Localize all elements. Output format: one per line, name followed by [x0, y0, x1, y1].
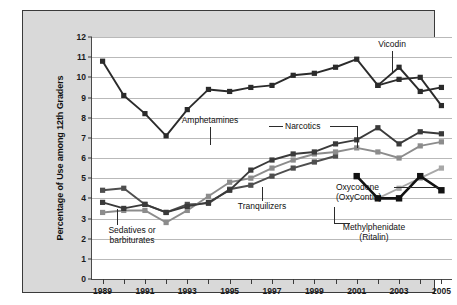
- x-tick-mark: [166, 279, 167, 284]
- data-point-marker: [121, 206, 126, 211]
- data-point-marker: [312, 149, 317, 154]
- leader-tranquilizers: [262, 187, 263, 201]
- annotation-narcotics: Narcotics: [285, 121, 320, 132]
- data-point-marker: [121, 93, 126, 98]
- data-point-marker: [439, 139, 444, 144]
- annotation-sedatives-line2: barbiturates: [110, 235, 155, 246]
- series-line: [103, 156, 336, 212]
- y-tick-label: 6: [81, 153, 86, 163]
- x-tick-mark: [208, 279, 209, 284]
- data-point-marker: [248, 85, 253, 90]
- y-tick-label: 9: [81, 93, 86, 103]
- y-tick-label: 7: [81, 133, 86, 143]
- x-tick-label: 2005: [432, 286, 451, 296]
- x-tick-label: 1995: [220, 286, 239, 296]
- data-point-marker: [418, 129, 423, 134]
- data-point-marker: [227, 188, 232, 193]
- y-tick-label: 2: [81, 234, 86, 244]
- x-tick-label: 2003: [390, 286, 409, 296]
- data-point-marker: [227, 89, 232, 94]
- annotation-oxycodone-line1: Oxycodone: [336, 182, 379, 193]
- data-point-marker: [396, 155, 401, 160]
- x-tick-mark: [145, 279, 146, 284]
- series-vicodin: [375, 65, 444, 94]
- y-tick-label: 8: [81, 113, 86, 123]
- data-point-marker: [354, 173, 360, 179]
- data-point-marker: [418, 75, 423, 80]
- data-point-marker: [142, 208, 147, 213]
- data-point-marker: [291, 157, 296, 162]
- data-point-marker: [439, 131, 444, 136]
- data-point-marker: [142, 111, 147, 116]
- x-tick-label: 1997: [263, 286, 282, 296]
- x-tick-mark: [441, 279, 442, 284]
- x-tick-label: 2001: [347, 286, 366, 296]
- data-point-marker: [418, 143, 423, 148]
- x-tick-label: 1989: [93, 286, 112, 296]
- series-tranquilizers: [100, 139, 444, 225]
- x-tick-mark: [187, 279, 188, 284]
- data-point-marker: [269, 157, 274, 162]
- data-point-marker: [439, 165, 444, 170]
- leader-ritalin: [334, 207, 335, 223]
- annotation-ritalin-line1: Methylphenidate: [343, 222, 405, 233]
- data-point-marker: [121, 186, 126, 191]
- x-tick-mark: [230, 279, 231, 284]
- data-point-marker: [185, 107, 190, 112]
- data-point-marker: [396, 141, 401, 146]
- series-line: [103, 59, 442, 136]
- leader-vicodin: [392, 51, 393, 73]
- data-point-marker: [439, 85, 444, 90]
- annotation-oxycodone-line2: (OxyContin): [336, 192, 381, 203]
- x-tick-mark: [293, 279, 294, 284]
- y-tick-label: 3: [81, 214, 86, 224]
- y-tick-label: 10: [77, 72, 86, 82]
- annotation-tranquilizers: Tranquilizers: [238, 201, 286, 212]
- x-tick-mark: [420, 279, 421, 284]
- annotation-vicodin: Vicodin: [378, 39, 406, 50]
- x-tick-mark: [336, 279, 337, 284]
- data-point-marker: [206, 200, 211, 205]
- data-point-marker: [142, 202, 147, 207]
- x-tick-mark: [103, 279, 104, 284]
- leader-narcotics-down: [357, 126, 358, 148]
- data-point-marker: [164, 220, 169, 225]
- data-point-marker: [333, 141, 338, 146]
- y-axis-title: Percentage of Use among 12th Graders: [53, 37, 67, 279]
- annotation-sedatives-line1: Sedatives or: [108, 225, 155, 236]
- data-point-marker: [269, 165, 274, 170]
- data-point-marker: [227, 180, 232, 185]
- data-point-marker: [206, 194, 211, 199]
- data-point-marker: [396, 77, 401, 82]
- data-point-marker: [248, 168, 253, 173]
- data-point-marker: [248, 176, 253, 181]
- data-point-marker: [291, 73, 296, 78]
- leader-narcotics-right: [330, 126, 357, 127]
- plot-area: 0123456789101112 19891991199319951997199…: [91, 37, 452, 280]
- y-tick-label: 4: [81, 193, 86, 203]
- data-point-marker: [100, 200, 105, 205]
- leader-amphetamines: [210, 127, 211, 145]
- x-tick-mark: [272, 279, 273, 284]
- data-point-marker: [269, 174, 274, 179]
- data-point-marker: [164, 210, 169, 215]
- x-tick-mark: [314, 279, 315, 284]
- data-point-marker: [417, 173, 423, 179]
- data-point-marker: [291, 151, 296, 156]
- chart-figure: Percentage of Use among 12th Graders 012…: [0, 0, 457, 305]
- y-tick-label: 0: [81, 274, 86, 284]
- data-point-marker: [439, 103, 444, 108]
- leader-sedatives: [117, 209, 118, 225]
- data-point-marker: [100, 59, 105, 64]
- data-point-marker: [333, 65, 338, 70]
- annotation-amphetamines: Amphetamines: [182, 115, 239, 126]
- x-tick-mark: [378, 279, 379, 284]
- data-point-marker: [100, 210, 105, 215]
- y-tick-label: 12: [77, 32, 86, 42]
- data-point-marker: [312, 71, 317, 76]
- y-tick-label: 11: [77, 52, 86, 62]
- x-tick-mark: [399, 279, 400, 284]
- data-point-marker: [333, 149, 338, 154]
- data-point-marker: [248, 183, 253, 188]
- x-tick-label: 1991: [135, 286, 154, 296]
